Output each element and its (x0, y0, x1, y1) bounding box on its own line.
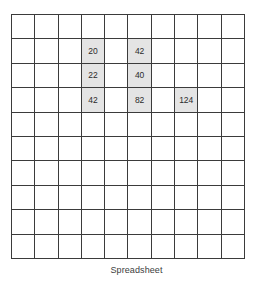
spreadsheet-cell[interactable] (221, 234, 244, 258)
spreadsheet-cell[interactable] (81, 234, 104, 258)
spreadsheet-cell[interactable] (105, 234, 128, 258)
spreadsheet-cell[interactable] (175, 210, 198, 234)
spreadsheet-cell[interactable] (128, 161, 151, 185)
spreadsheet-cell[interactable] (128, 112, 151, 136)
spreadsheet-cell[interactable] (221, 88, 244, 112)
spreadsheet-cell[interactable] (58, 136, 81, 160)
spreadsheet-cell[interactable] (12, 185, 35, 209)
spreadsheet-cell[interactable] (35, 210, 58, 234)
spreadsheet-cell[interactable] (175, 185, 198, 209)
spreadsheet-cell[interactable] (58, 15, 81, 39)
spreadsheet-cell[interactable] (81, 210, 104, 234)
spreadsheet-cell[interactable] (175, 112, 198, 136)
spreadsheet-cell[interactable] (58, 185, 81, 209)
spreadsheet-cell[interactable] (35, 88, 58, 112)
spreadsheet-cell[interactable] (81, 112, 104, 136)
spreadsheet-cell[interactable] (151, 112, 174, 136)
spreadsheet-cell[interactable] (128, 185, 151, 209)
spreadsheet-cell[interactable] (12, 39, 35, 63)
spreadsheet-cell[interactable] (198, 15, 221, 39)
spreadsheet-cell[interactable] (12, 136, 35, 160)
spreadsheet-cell[interactable] (198, 210, 221, 234)
spreadsheet-cell[interactable] (35, 112, 58, 136)
spreadsheet-cell[interactable] (35, 136, 58, 160)
spreadsheet-cell[interactable] (151, 63, 174, 87)
spreadsheet-cell[interactable] (105, 88, 128, 112)
spreadsheet-cell[interactable] (35, 63, 58, 87)
spreadsheet-cell[interactable] (198, 39, 221, 63)
spreadsheet-cell[interactable] (198, 234, 221, 258)
spreadsheet-cell[interactable] (198, 136, 221, 160)
spreadsheet-cell[interactable] (81, 185, 104, 209)
spreadsheet-cell[interactable] (151, 185, 174, 209)
spreadsheet-cell[interactable] (35, 234, 58, 258)
spreadsheet-cell[interactable] (105, 136, 128, 160)
spreadsheet-cell[interactable] (58, 234, 81, 258)
spreadsheet-cell[interactable]: 40 (128, 63, 151, 87)
spreadsheet-cell[interactable] (105, 39, 128, 63)
spreadsheet-cell[interactable] (12, 161, 35, 185)
spreadsheet-cell[interactable] (128, 234, 151, 258)
spreadsheet-cell[interactable] (105, 63, 128, 87)
spreadsheet-cell[interactable] (12, 234, 35, 258)
spreadsheet-cell[interactable] (221, 210, 244, 234)
spreadsheet-cell[interactable]: 124 (175, 88, 198, 112)
spreadsheet-cell[interactable] (175, 161, 198, 185)
spreadsheet-cell[interactable]: 42 (81, 88, 104, 112)
spreadsheet-grid[interactable]: 204222404282124 (11, 14, 245, 259)
spreadsheet-cell[interactable] (221, 185, 244, 209)
spreadsheet-cell[interactable] (58, 210, 81, 234)
spreadsheet-cell[interactable] (151, 234, 174, 258)
spreadsheet-cell[interactable] (105, 185, 128, 209)
spreadsheet-cell[interactable] (12, 88, 35, 112)
spreadsheet-cell[interactable] (175, 39, 198, 63)
spreadsheet-cell[interactable] (105, 112, 128, 136)
spreadsheet-cell[interactable] (12, 112, 35, 136)
spreadsheet-cell[interactable]: 22 (81, 63, 104, 87)
spreadsheet-cell[interactable] (221, 112, 244, 136)
spreadsheet-cell[interactable] (105, 210, 128, 234)
spreadsheet-cell[interactable] (198, 161, 221, 185)
spreadsheet-cell[interactable] (151, 136, 174, 160)
spreadsheet-cell[interactable] (81, 161, 104, 185)
spreadsheet-cell[interactable] (35, 161, 58, 185)
spreadsheet-cell[interactable] (58, 88, 81, 112)
spreadsheet-cell[interactable] (58, 39, 81, 63)
spreadsheet-cell[interactable] (81, 136, 104, 160)
spreadsheet-cell[interactable] (151, 39, 174, 63)
spreadsheet-cell[interactable] (105, 161, 128, 185)
spreadsheet-cell[interactable]: 20 (81, 39, 104, 63)
spreadsheet-cell[interactable] (221, 15, 244, 39)
spreadsheet-cell[interactable] (12, 210, 35, 234)
spreadsheet-cell[interactable] (175, 15, 198, 39)
spreadsheet-cell[interactable] (35, 39, 58, 63)
spreadsheet-cell[interactable] (128, 210, 151, 234)
spreadsheet-cell[interactable] (35, 15, 58, 39)
spreadsheet-cell[interactable] (151, 15, 174, 39)
spreadsheet-cell[interactable] (198, 112, 221, 136)
spreadsheet-cell[interactable] (58, 63, 81, 87)
spreadsheet-cell[interactable] (12, 15, 35, 39)
spreadsheet-cell[interactable] (151, 161, 174, 185)
spreadsheet-cell[interactable] (105, 15, 128, 39)
spreadsheet-cell[interactable] (35, 185, 58, 209)
spreadsheet-cell[interactable] (151, 210, 174, 234)
spreadsheet-cell[interactable] (175, 234, 198, 258)
spreadsheet-cell[interactable] (175, 136, 198, 160)
spreadsheet-cell[interactable] (81, 15, 104, 39)
spreadsheet-cell[interactable] (221, 136, 244, 160)
spreadsheet-cell[interactable] (12, 63, 35, 87)
spreadsheet-cell[interactable]: 42 (128, 39, 151, 63)
spreadsheet-cell[interactable] (198, 63, 221, 87)
spreadsheet-cell[interactable] (221, 63, 244, 87)
spreadsheet-cell[interactable] (221, 161, 244, 185)
spreadsheet-cell[interactable] (58, 161, 81, 185)
spreadsheet-cell[interactable] (128, 15, 151, 39)
spreadsheet-cell[interactable] (198, 88, 221, 112)
spreadsheet-cell[interactable] (221, 39, 244, 63)
spreadsheet-cell[interactable] (128, 136, 151, 160)
spreadsheet-cell[interactable]: 82 (128, 88, 151, 112)
spreadsheet-cell[interactable] (151, 88, 174, 112)
spreadsheet-cell[interactable] (198, 185, 221, 209)
spreadsheet-cell[interactable] (175, 63, 198, 87)
